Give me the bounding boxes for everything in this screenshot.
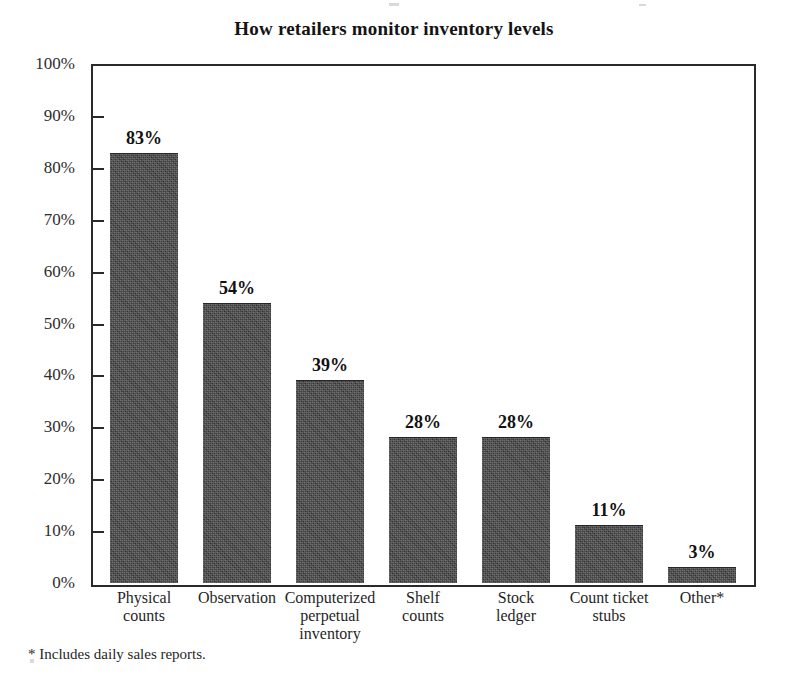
x-axis-category-label: Other* xyxy=(650,589,754,607)
y-axis-tick-label: 60% xyxy=(0,262,83,282)
x-axis-category-label-line: Computerized xyxy=(278,589,382,607)
y-axis-tick-label: 50% xyxy=(0,314,83,334)
chart-title: How retailers monitor inventory levels xyxy=(0,18,788,40)
y-axis-tick-label: 100% xyxy=(0,54,83,74)
bar-group[interactable]: 3% xyxy=(668,66,736,583)
x-axis-category-label: Stockledger xyxy=(464,589,568,625)
y-axis-tick-label: 20% xyxy=(0,469,83,489)
x-axis-category-label-line: ledger xyxy=(464,607,568,625)
y-axis-tick-label: 90% xyxy=(0,106,83,126)
x-axis-category-label-line: Stock xyxy=(464,589,568,607)
bar-rect[interactable] xyxy=(389,437,457,583)
x-axis-category-label: Physicalcounts xyxy=(92,589,196,625)
y-axis-tick-label: 30% xyxy=(0,417,83,437)
bar-group[interactable]: 83% xyxy=(110,66,178,583)
bar-rect[interactable] xyxy=(296,380,364,583)
bar-rect[interactable] xyxy=(110,153,178,583)
bar-rect[interactable] xyxy=(668,567,736,584)
y-axis-tick-label: 0% xyxy=(0,573,83,593)
y-axis-tick-label: 80% xyxy=(0,158,83,178)
bar-series: 83%54%39%28%28%11%3% xyxy=(93,66,750,583)
bar-value-label: 3% xyxy=(654,542,750,563)
x-axis-category-label-line: Other* xyxy=(650,589,754,607)
x-axis-category-label: Shelfcounts xyxy=(371,589,475,625)
x-axis-category-label-line: Physical xyxy=(92,589,196,607)
bar-value-label: 28% xyxy=(375,412,471,433)
bar-group[interactable]: 28% xyxy=(482,66,550,583)
y-axis-tick-label: 70% xyxy=(0,210,83,230)
y-axis-tick-label: 10% xyxy=(0,521,83,541)
bar-rect[interactable] xyxy=(575,525,643,583)
y-axis-labels: 0%10%20%30%40%50%60%70%80%90%100% xyxy=(0,64,83,583)
bar-value-label: 54% xyxy=(189,278,285,299)
x-axis-category-label-line: counts xyxy=(92,607,196,625)
bar-rect[interactable] xyxy=(203,303,271,583)
x-axis-category-label: Count ticketstubs xyxy=(557,589,661,625)
bar-value-label: 39% xyxy=(282,355,378,376)
bar-group[interactable]: 54% xyxy=(203,66,271,583)
x-axis-category-label-line: Observation xyxy=(185,589,289,607)
scan-artifact-speck xyxy=(639,4,646,6)
bar-group[interactable]: 11% xyxy=(575,66,643,583)
bar-rect[interactable] xyxy=(482,437,550,583)
bar-group[interactable]: 28% xyxy=(389,66,457,583)
x-axis-category-label: Observation xyxy=(185,589,289,607)
bar-value-label: 11% xyxy=(561,500,657,521)
bar-group[interactable]: 39% xyxy=(296,66,364,583)
scan-artifact-speck xyxy=(30,659,34,663)
x-axis-category-label-line: stubs xyxy=(557,607,661,625)
x-axis-category-label-line: Shelf xyxy=(371,589,475,607)
bar-value-label: 28% xyxy=(468,412,564,433)
x-axis-category-label-line: perpetual xyxy=(278,607,382,625)
scan-artifact-speck xyxy=(389,3,399,6)
footnote: * Includes daily sales reports. xyxy=(28,646,206,663)
x-axis-category-label-line: counts xyxy=(371,607,475,625)
x-axis-category-label-line: inventory xyxy=(278,625,382,643)
x-axis-category-label-line: Count ticket xyxy=(557,589,661,607)
bar-value-label: 83% xyxy=(96,128,192,149)
x-axis-category-label: Computerizedperpetualinventory xyxy=(278,589,382,643)
y-axis-tick-label: 40% xyxy=(0,365,83,385)
